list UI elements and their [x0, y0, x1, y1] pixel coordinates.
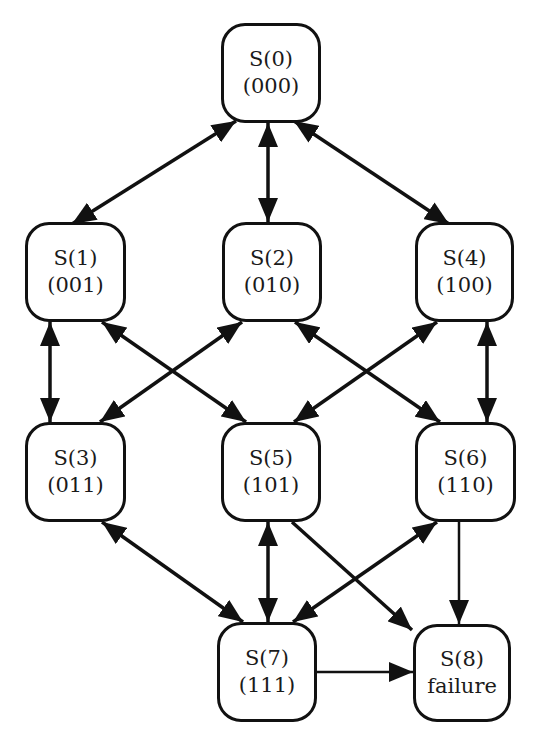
node-s4: S(4) (100) [415, 222, 514, 322]
edge-s0-s4 [294, 121, 449, 224]
edge-s3-s7 [102, 522, 243, 622]
node-s5: S(5) (101) [221, 422, 321, 522]
node-s7-code: (111) [239, 672, 295, 699]
node-s5-label: S(5) [249, 445, 293, 472]
node-s1: S(1) (001) [25, 222, 126, 322]
node-s3-code: (011) [47, 472, 103, 499]
node-s5-code: (101) [243, 472, 299, 499]
edge-s6-s7 [293, 522, 437, 622]
node-s4-code: (100) [436, 272, 492, 299]
node-s8-label: S(8) [440, 646, 484, 673]
node-s7: S(7) (111) [217, 622, 317, 722]
node-s6: S(6) (110) [415, 422, 516, 522]
node-s6-code: (110) [437, 472, 493, 499]
node-s8-code: failure [427, 673, 497, 700]
node-s6-label: S(6) [443, 445, 487, 472]
node-s3-label: S(3) [53, 445, 97, 472]
edge-s0-s1 [72, 121, 236, 224]
node-s2: S(2) (010) [222, 222, 322, 322]
node-s1-label: S(1) [53, 245, 97, 272]
node-s0-code: (000) [243, 73, 299, 100]
node-s1-code: (001) [47, 272, 103, 299]
node-s7-label: S(7) [245, 645, 289, 672]
node-s3: S(3) (011) [25, 422, 126, 522]
node-s2-label: S(2) [250, 245, 294, 272]
node-s0-label: S(0) [249, 46, 293, 73]
node-s8-failure: S(8) failure [413, 624, 511, 722]
node-s0: S(0) (000) [221, 23, 321, 123]
node-s2-code: (010) [244, 272, 300, 299]
state-diagram: S(0) (000) S(1) (001) S(2) (010) S(4) (1… [0, 0, 539, 754]
node-s4-label: S(4) [442, 245, 486, 272]
edge-s5-s8 [292, 522, 412, 630]
